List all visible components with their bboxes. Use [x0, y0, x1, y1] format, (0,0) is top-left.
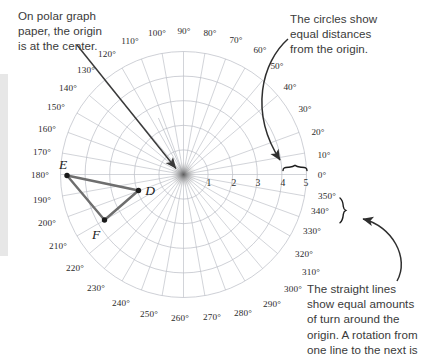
angle-label-170: 170° [33, 147, 51, 157]
radial-tick-2: 2 [232, 177, 237, 188]
point-label-f: F [92, 227, 100, 243]
angle-label-250: 250° [140, 309, 158, 319]
annotation-straight-lines: The straight lines show equal amounts of… [307, 281, 441, 357]
angle-label-0: 0° [318, 170, 326, 180]
angle-label-110: 110° [121, 36, 139, 46]
angle-label-140: 140° [59, 83, 77, 93]
angle-label-340: 340° [311, 206, 329, 216]
angle-label-180: 180° [31, 170, 49, 180]
angle-label-300: 300° [284, 284, 302, 294]
radial-tick-5: 5 [304, 177, 309, 188]
angle-label-60: 60° [253, 45, 266, 55]
angle-label-280: 280° [234, 308, 252, 318]
angle-label-150: 150° [47, 102, 65, 112]
point-f-dot [102, 217, 107, 222]
radial-tick-1: 1 [207, 177, 212, 188]
angle-label-130: 130° [77, 65, 95, 75]
angle-label-40: 40° [283, 82, 296, 92]
angle-label-260: 260° [171, 313, 189, 323]
annotation-circles: The circles show equal distances from th… [290, 11, 377, 57]
polar-graph-figure: On polar graph paper, the origin is at t… [0, 0, 441, 357]
angle-label-220: 220° [66, 263, 84, 273]
angle-label-80: 80° [203, 28, 216, 38]
point-label-e: E [59, 157, 67, 173]
angle-label-290: 290° [263, 299, 281, 309]
angle-label-10: 10° [317, 150, 330, 160]
angle-label-330: 330° [303, 226, 321, 236]
angle-label-50: 50° [270, 61, 283, 71]
angle-label-320: 320° [295, 249, 313, 259]
angle-label-30: 30° [298, 104, 311, 114]
angle-label-160: 160° [38, 124, 56, 134]
angle-label-200: 200° [38, 218, 56, 228]
origin-callout-arrow [77, 45, 176, 169]
lines-callout-arrow [363, 219, 401, 281]
point-label-d: D [145, 183, 155, 199]
angle-label-310: 310° [302, 267, 320, 277]
angle-label-20: 20° [311, 127, 324, 137]
angle-label-350: 350° [318, 191, 336, 201]
angle-label-210: 210° [49, 241, 67, 251]
angle-label-230: 230° [87, 283, 105, 293]
angle-label-270: 270° [203, 312, 221, 322]
angle-label-120: 120° [98, 49, 116, 59]
angle-label-190: 190° [33, 195, 51, 205]
radial-distance-brace [283, 165, 307, 170]
angle-label-240: 240° [112, 298, 130, 308]
annotation-origin: On polar graph paper, the origin is at t… [18, 8, 102, 54]
point-e-dot [64, 173, 69, 178]
circles-callout-arrow [262, 39, 288, 160]
radial-tick-3: 3 [256, 177, 261, 188]
triangle-def [64, 173, 141, 223]
angle-label-70: 70° [229, 35, 242, 45]
angular-turn-brace [340, 198, 346, 223]
angle-label-100: 100° [148, 28, 166, 38]
point-d-dot [136, 188, 141, 193]
angle-label-90: 90° [177, 26, 190, 36]
radial-tick-4: 4 [281, 177, 286, 188]
